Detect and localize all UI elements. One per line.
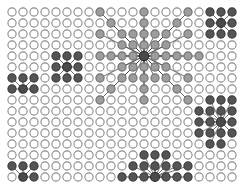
lattice-node-linked [162,30,170,38]
lattice-node-linked [96,8,104,16]
lattice-node-empty [228,173,236,181]
lattice-node-linked [217,129,225,137]
lattice-node-linked [195,107,203,115]
lattice-node-empty [41,107,49,115]
lattice-node-linked [129,63,137,71]
lattice-node-linked [184,8,192,16]
lattice-node-empty [30,63,38,71]
lattice-node-empty [184,85,192,93]
lattice-node-linked [228,30,236,38]
lattice-node-empty [206,63,214,71]
lattice-node-empty [129,107,137,115]
lattice-node-empty [41,140,49,148]
lattice-node-empty [8,52,16,60]
lattice-node-empty [162,8,170,16]
lattice-node-empty [151,107,159,115]
lattice-node-linked [129,30,137,38]
lattice-node-empty [19,52,27,60]
lattice-node-empty [206,74,214,82]
lattice-node-linked [151,63,159,71]
lattice-node-linked [206,118,214,126]
lattice-node-empty [63,41,71,49]
lattice-node-linked [96,30,104,38]
lattice-node-empty [8,96,16,104]
lattice-node-empty [228,52,236,60]
lattice-node-linked [184,96,192,104]
lattice-node-empty [19,151,27,159]
lattice-node-empty [30,118,38,126]
lattice-node-empty [8,118,16,126]
lattice-node-empty [19,41,27,49]
lattice-node-empty [195,63,203,71]
lattice-node-empty [8,173,16,181]
lattice-node-empty [96,107,104,115]
lattice-node-linked [162,63,170,71]
lattice-node-empty [96,173,104,181]
lattice-node-empty [217,63,225,71]
lattice-node-empty [52,118,60,126]
lattice-node-linked [129,173,137,181]
lattice-node-empty [74,140,82,148]
lattice-node-empty [52,151,60,159]
lattice-node-linked [118,74,126,82]
lattice-node-empty [85,96,93,104]
lattice-node-linked [140,19,148,27]
lattice-node-empty [129,96,137,104]
lattice-node-empty [118,151,126,159]
lattice-node-empty [228,85,236,93]
lattice-node-empty [140,140,148,148]
lattice-node-empty [217,74,225,82]
lattice-node-empty [206,162,214,170]
lattice-node-empty [8,30,16,38]
lattice-node-empty [228,162,236,170]
lattice-node-empty [129,140,137,148]
lattice-node-empty [173,74,181,82]
lattice-node-empty [162,85,170,93]
lattice-node-empty [74,19,82,27]
lattice-node-linked [206,19,214,27]
lattice-node-empty [217,173,225,181]
lattice-node-linked [228,19,236,27]
lattice-node-hub [63,63,72,72]
lattice-node-hub [19,85,28,94]
lattice-node-empty [52,19,60,27]
lattice-node-empty [173,151,181,159]
lattice-node-empty [8,129,16,137]
lattice-network-figure [0,0,244,189]
lattice-node-empty [63,30,71,38]
lattice-node-empty [107,96,115,104]
lattice-node-linked [217,140,225,148]
lattice-node-empty [41,118,49,126]
lattice-node-empty [85,85,93,93]
lattice-node-empty [41,129,49,137]
lattice-node-empty [184,107,192,115]
lattice-node-empty [19,140,27,148]
lattice-node-empty [52,162,60,170]
lattice-node-linked [129,41,137,49]
lattice-node-empty [129,151,137,159]
lattice-node-linked [30,173,38,181]
lattice-node-empty [118,107,126,115]
lattice-node-empty [217,151,225,159]
lattice-node-empty [30,151,38,159]
lattice-node-linked [52,63,60,71]
lattice-node-linked [217,30,225,38]
lattice-node-empty [30,41,38,49]
lattice-node-empty [107,63,115,71]
lattice-node-empty [195,96,203,104]
lattice-node-empty [107,74,115,82]
lattice-node-linked [8,85,16,93]
lattice-node-empty [52,96,60,104]
lattice-node-empty [30,129,38,137]
lattice-node-empty [85,151,93,159]
lattice-node-empty [85,63,93,71]
lattice-node-empty [151,19,159,27]
lattice-node-linked [162,173,170,181]
lattice-node-empty [52,140,60,148]
lattice-node-empty [217,85,225,93]
lattice-node-linked [140,8,148,16]
lattice-node-linked [206,30,214,38]
lattice-node-empty [118,162,126,170]
lattice-node-empty [52,8,60,16]
lattice-node-linked [228,107,236,115]
